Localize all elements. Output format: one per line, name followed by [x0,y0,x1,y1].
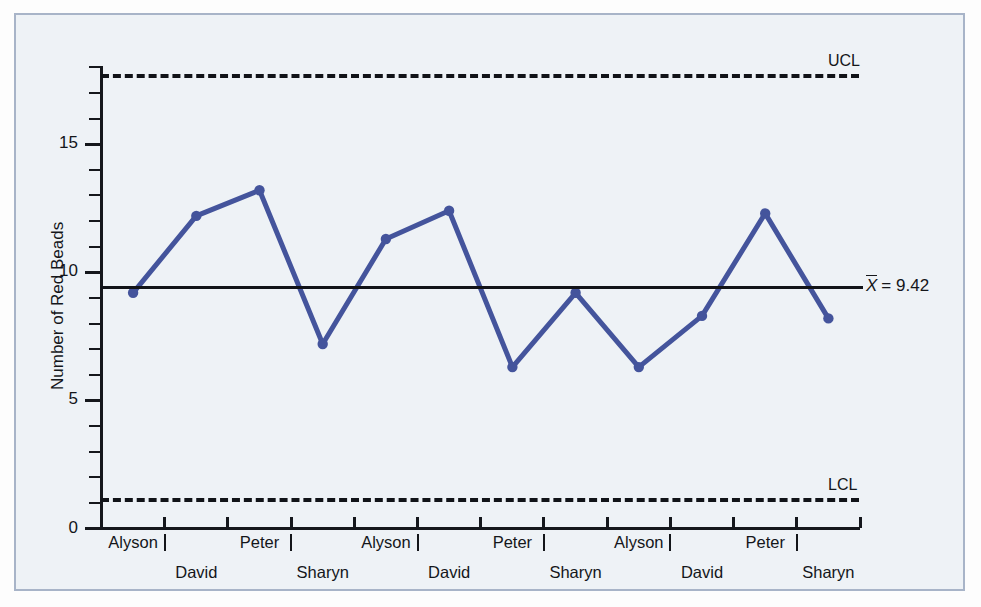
y-tick-label-0: 0 [38,518,78,538]
data-point-8 [634,362,644,372]
y-tick-14 [89,169,103,171]
x-tick-12 [859,517,862,528]
y-tick-10 [85,271,103,274]
lcl-line [101,498,859,502]
center-value-text: = 9.42 [881,276,929,295]
data-point-11 [823,313,833,323]
data-point-2 [254,185,264,195]
data-point-3 [318,339,328,349]
data-point-6 [507,362,517,372]
x-category-separator-9 [669,534,671,551]
x-category-label-5: David [428,563,470,582]
x-category-separator-5 [417,534,419,551]
x-category-label-2: Peter [240,533,279,552]
data-point-5 [444,206,454,216]
x-category-separator-1 [164,534,166,551]
x-tick-10 [732,517,735,528]
x-tick-7 [542,517,545,528]
figure: Number of Red Beads UCL LCL X= 9.42 0510… [0,0,981,607]
y-tick-label-5: 5 [38,389,78,409]
x-tick-4 [353,517,356,528]
y-tick-9 [89,297,103,299]
y-tick-5 [85,399,103,402]
y-tick-17 [89,92,103,94]
ucl-line [101,74,859,78]
x-tick-2 [226,517,229,528]
y-tick-8 [89,323,103,325]
x-tick-5 [416,517,419,528]
x-category-label-4: Alyson [361,533,411,552]
x-category-label-6: Peter [493,533,532,552]
y-tick-3 [89,451,103,453]
plot-area: Number of Red Beads UCL LCL X= 9.42 0510… [0,0,981,607]
y-tick-label-10: 10 [38,261,78,281]
x-category-label-10: Peter [745,533,784,552]
y-tick-4 [89,425,103,427]
x-category-label-11: Sharyn [802,563,854,582]
x-category-separator-7 [543,534,545,551]
x-category-label-8: Alyson [614,533,664,552]
x-category-separator-11 [796,534,798,551]
lcl-label: LCL [828,476,857,494]
y-tick-13 [89,194,103,196]
y-tick-6 [89,374,103,376]
x-category-label-1: David [175,563,217,582]
y-tick-7 [89,348,103,350]
y-tick-15 [85,143,103,146]
x-bar-symbol: X [866,275,877,294]
x-category-label-7: Sharyn [549,563,601,582]
x-category-separator-3 [290,534,292,551]
data-point-4 [381,234,391,244]
data-point-10 [760,208,770,218]
y-tick-16 [89,118,103,120]
y-tick-18 [89,66,103,68]
x-category-label-0: Alyson [108,533,158,552]
x-tick-6 [479,517,482,528]
center-line [101,286,863,289]
x-tick-1 [163,517,166,528]
y-tick-11 [89,246,103,248]
x-tick-3 [290,517,293,528]
x-tick-8 [606,517,609,528]
data-point-9 [697,311,707,321]
data-point-7 [570,288,580,298]
data-point-0 [128,288,138,298]
ucl-label: UCL [828,52,860,70]
y-tick-12 [89,220,103,222]
x-tick-11 [795,517,798,528]
x-tick-0 [100,517,103,528]
y-tick-label-15: 15 [38,133,78,153]
data-series-line [0,0,981,607]
center-line-label: X= 9.42 [866,275,929,296]
x-tick-9 [669,517,672,528]
y-tick-2 [89,476,103,478]
data-point-1 [191,211,201,221]
x-category-label-9: David [681,563,723,582]
y-tick-1 [89,502,103,504]
x-category-label-3: Sharyn [297,563,349,582]
